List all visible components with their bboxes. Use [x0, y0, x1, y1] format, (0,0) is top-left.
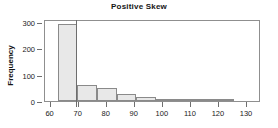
histogram-bar — [117, 94, 137, 101]
x-tick-mark — [218, 102, 219, 107]
histogram-bar — [97, 88, 117, 101]
x-tick-mark — [50, 102, 51, 107]
x-tick-mark — [246, 102, 247, 107]
x-tick-label: 100 — [156, 109, 169, 118]
x-tick-mark — [106, 102, 107, 107]
x-tick-label: 130 — [240, 109, 253, 118]
x-tick-mark — [162, 102, 163, 107]
histogram-chart: Positive Skew Frequency 0100200300 60708… — [0, 0, 278, 128]
histogram-bar — [58, 24, 78, 101]
histogram-bar — [215, 99, 235, 101]
x-tick-label: 70 — [73, 109, 81, 118]
histogram-bar — [136, 97, 156, 101]
x-tick-mark — [134, 102, 135, 107]
x-tick-mark — [190, 102, 191, 107]
x-tick-label: 80 — [102, 109, 110, 118]
plot-area — [44, 20, 260, 102]
histogram-bar — [77, 85, 97, 101]
x-tick-mark — [78, 102, 79, 107]
histogram-bar — [175, 99, 195, 101]
x-tick-label: 120 — [212, 109, 225, 118]
x-tick-label: 110 — [184, 109, 196, 118]
histogram-bar — [195, 99, 215, 101]
vertical-reference-line — [76, 20, 77, 107]
histogram-bar — [156, 99, 176, 101]
x-tick-label: 60 — [45, 109, 53, 118]
x-tick-label: 90 — [130, 109, 138, 118]
